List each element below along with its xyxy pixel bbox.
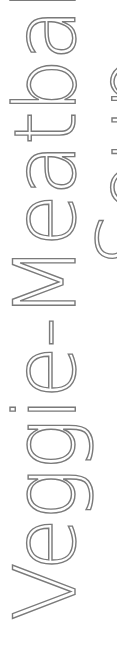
title-line-1: Veggie-Meatball: [2, 0, 88, 621]
title-line-2: Soup: [86, 58, 117, 266]
vertical-title: Veggie-Meatball Soup: [0, 0, 117, 651]
